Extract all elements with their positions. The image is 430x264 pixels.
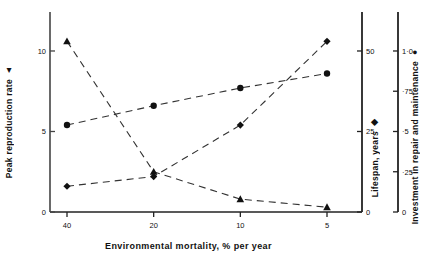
- data-point-triangle: [63, 38, 71, 45]
- data-series: [63, 38, 331, 211]
- axis-tick-label: 5: [325, 221, 329, 230]
- series-line: [67, 41, 327, 186]
- axis-tick-label: 20: [149, 221, 157, 230]
- chart-canvas: 40201050510025500·25·5·751·0: [0, 0, 430, 264]
- axis-tick-label: 0: [402, 208, 406, 217]
- left-axis-title: Peak reproduction rate ▲: [4, 66, 14, 178]
- data-point-circle: [64, 122, 70, 128]
- axis-tick-label: 5: [42, 127, 46, 136]
- right-axis-title-investment: Investment in repair and maintenance ●: [410, 48, 420, 224]
- axis-tick-label: 50: [366, 47, 374, 56]
- x-axis-title: Environmental mortality, % per year: [105, 241, 272, 251]
- axis-tick-label: 40: [63, 221, 71, 230]
- data-point-diamond: [237, 121, 244, 128]
- axis-tick-label: ·5: [402, 127, 409, 136]
- data-point-diamond: [63, 183, 70, 190]
- axis-tick-label: 10: [236, 221, 244, 230]
- series-line: [67, 74, 327, 126]
- data-series: [63, 38, 330, 190]
- axis-tick-label: 0: [42, 208, 46, 217]
- axis-layer: 40201050510025500·25·5·751·0: [38, 12, 413, 230]
- data-point-circle: [237, 85, 243, 91]
- data-point-circle: [324, 70, 330, 76]
- data-point-circle: [150, 103, 156, 109]
- data-point-triangle: [323, 203, 331, 210]
- data-series: [64, 70, 330, 128]
- series-layer: [63, 38, 331, 211]
- axis-tick-label: 10: [38, 47, 46, 56]
- axis-tick-label: 0: [366, 208, 370, 217]
- chart-figure: 40201050510025500·25·5·751·0 Peak reprod…: [0, 0, 430, 264]
- right-axis-title-lifespan: Lifespan, years ◆: [370, 118, 380, 197]
